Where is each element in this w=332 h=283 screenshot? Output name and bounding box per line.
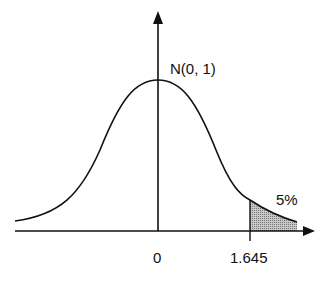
y-axis-arrow-icon <box>153 11 163 24</box>
normal-curve <box>15 80 297 222</box>
x-tick-label-1: 1.645 <box>230 249 268 266</box>
distribution-label: N(0, 1) <box>170 60 216 77</box>
normal-distribution-chart: N(0, 1) 5% 0 1.645 <box>0 0 332 283</box>
x-tick-label-0: 0 <box>153 249 161 266</box>
x-axis-arrow-icon <box>303 226 315 236</box>
tail-percent-label: 5% <box>276 191 298 208</box>
